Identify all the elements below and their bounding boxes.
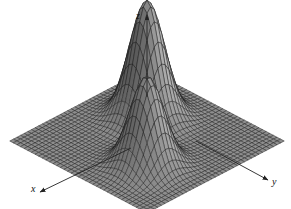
z-axis-label: z [136,11,140,21]
x-axis-label: x [31,184,35,194]
surface-mesh-canvas [0,0,291,209]
surface-plot-figure: x y z [0,0,291,209]
y-axis-label: y [272,177,276,187]
